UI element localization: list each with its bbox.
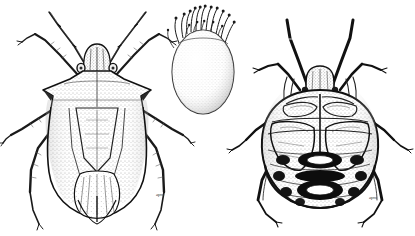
illustration-plate: apm xyxy=(0,0,415,236)
nymph-signature: apm xyxy=(369,195,378,200)
egg-chorion xyxy=(172,30,234,114)
adult-signature: apm xyxy=(156,192,165,197)
